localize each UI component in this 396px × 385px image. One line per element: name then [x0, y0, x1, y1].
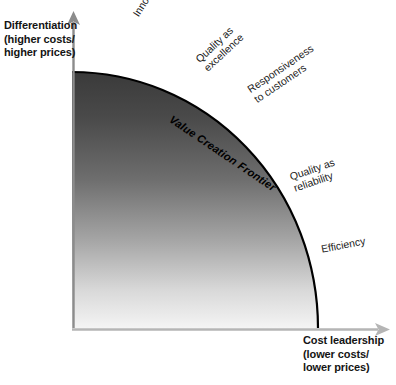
y-axis-label: Differentiation (higher costs/ higher pr…	[4, 19, 77, 60]
value-creation-frontier-figure: Differentiation (higher costs/ higher pr…	[0, 0, 396, 385]
x-axis-subtitle-1: (lower costs/	[303, 348, 384, 362]
x-axis-label: Cost leadership (lower costs/ lower pric…	[303, 334, 384, 375]
y-axis-subtitle-2: higher prices)	[4, 46, 77, 60]
y-axis-subtitle-1: (higher costs/	[4, 33, 77, 47]
x-axis-title: Cost leadership	[303, 334, 384, 348]
x-axis-subtitle-2: lower prices)	[303, 361, 384, 375]
y-axis-title: Differentiation	[4, 19, 77, 33]
value-creation-region	[72, 72, 318, 328]
